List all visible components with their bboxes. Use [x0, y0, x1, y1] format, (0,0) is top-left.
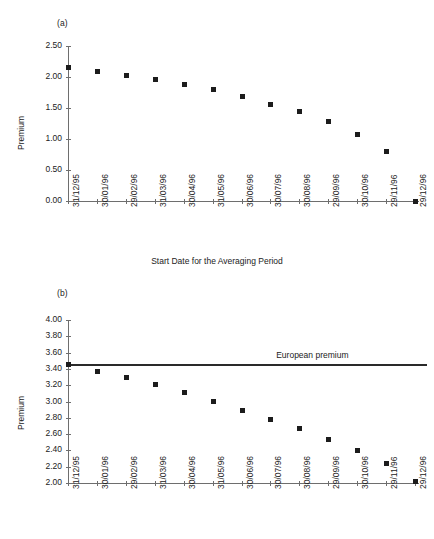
- data-point-marker: [413, 479, 418, 484]
- y-axis-tick: [66, 108, 71, 109]
- x-axis-tick-label: 29/09/96: [332, 456, 341, 489]
- data-point-marker: [326, 437, 331, 442]
- x-axis-tick-label: 29/11/96: [390, 175, 399, 207]
- x-axis-tick-label: 31/03/96: [159, 174, 168, 207]
- data-point-marker: [66, 65, 71, 70]
- x-axis-tick-label: 30/06/96: [246, 174, 255, 207]
- data-point-marker: [182, 82, 187, 87]
- y-axis-tick: [66, 46, 71, 47]
- data-point-marker: [413, 199, 418, 204]
- data-point-marker: [268, 417, 273, 422]
- y-axis-tick-label: 3.40: [0, 364, 62, 373]
- x-axis-tick-label: 29/11/96: [390, 457, 399, 489]
- y-axis-tick-label: 4.00: [0, 315, 62, 324]
- x-axis-tick: [328, 199, 329, 204]
- y-axis-tick-label: 2.80: [0, 413, 62, 422]
- x-axis-tick-label: 29/02/96: [130, 456, 139, 489]
- y-axis-tick-label: 3.80: [0, 331, 62, 340]
- x-axis-tick-label: 30/08/96: [303, 456, 312, 489]
- chart-a-y-axis-title: Premium: [16, 116, 26, 150]
- x-axis-tick: [299, 199, 300, 204]
- y-axis-tick-label: 3.20: [0, 380, 62, 389]
- x-axis-tick-label: 29/02/96: [130, 174, 139, 207]
- x-axis-tick: [328, 481, 329, 486]
- x-axis-tick-label: 30/10/96: [361, 174, 370, 207]
- y-axis-tick: [66, 320, 71, 321]
- data-point-marker: [153, 382, 158, 387]
- x-axis-tick-label: 30/01/96: [101, 456, 110, 489]
- x-axis-tick-label: 31/12/95: [72, 456, 81, 489]
- data-point-marker: [211, 87, 216, 92]
- data-point-marker: [153, 77, 158, 82]
- data-point-marker: [268, 102, 273, 107]
- x-axis-tick: [213, 199, 214, 204]
- european-premium-label: European premium: [276, 350, 348, 360]
- y-axis-tick: [66, 402, 71, 403]
- x-axis-tick-label: 30/01/96: [101, 174, 110, 207]
- x-axis-tick-label: 29/12/96: [419, 456, 428, 489]
- data-point-marker: [240, 94, 245, 99]
- data-point-marker: [95, 69, 100, 74]
- x-axis-tick: [184, 481, 185, 486]
- x-axis-tick: [242, 481, 243, 486]
- y-axis-tick-label: 2.50: [0, 41, 62, 50]
- x-axis-tick: [126, 199, 127, 204]
- x-axis-tick-label: 30/04/96: [188, 456, 197, 489]
- y-axis-tick: [66, 77, 71, 78]
- y-axis-tick: [66, 353, 71, 354]
- data-point-marker: [124, 73, 129, 78]
- x-axis-tick: [357, 481, 358, 486]
- x-axis-tick: [97, 481, 98, 486]
- y-axis-tick-label: 1.00: [0, 134, 62, 143]
- x-axis-tick-label: 30/10/96: [361, 456, 370, 489]
- y-axis-tick: [66, 434, 71, 435]
- x-axis-tick: [97, 199, 98, 204]
- panel-a-label: (a): [57, 18, 68, 28]
- x-axis-tick-label: 31/03/96: [159, 456, 168, 489]
- y-axis-tick: [66, 450, 71, 451]
- x-axis-tick: [357, 199, 358, 204]
- x-axis-tick: [126, 481, 127, 486]
- chart-panel-a: (a) Premium 0.000.501.001.502.002.5031/1…: [0, 0, 434, 270]
- y-axis-tick-label: 2.20: [0, 462, 62, 471]
- european-premium-reference-line: [68, 364, 427, 366]
- data-point-marker: [355, 132, 360, 137]
- x-axis-tick: [299, 481, 300, 486]
- x-axis-tick-label: 29/09/96: [332, 174, 341, 207]
- y-axis-tick: [66, 336, 71, 337]
- data-point-marker: [95, 369, 100, 374]
- x-axis-tick: [270, 481, 271, 486]
- x-axis-tick-label: 30/07/96: [274, 456, 283, 489]
- y-axis-tick: [66, 418, 71, 419]
- data-point-marker: [124, 375, 129, 380]
- data-point-marker: [182, 390, 187, 395]
- y-axis-tick-label: 2.60: [0, 429, 62, 438]
- x-axis-tick: [213, 481, 214, 486]
- x-axis-tick: [270, 199, 271, 204]
- y-axis-tick-label: 2.00: [0, 478, 62, 487]
- x-axis-tick: [68, 199, 69, 204]
- y-axis-tick: [66, 385, 71, 386]
- data-point-marker: [297, 109, 302, 114]
- y-axis-tick-label: 2.00: [0, 72, 62, 81]
- x-axis-tick-label: 31/05/96: [217, 456, 226, 489]
- y-axis-tick-label: 3.60: [0, 348, 62, 357]
- data-point-marker: [326, 119, 331, 124]
- x-axis-tick: [155, 199, 156, 204]
- chart-a-x-axis-title: Start Date for the Averaging Period: [0, 256, 434, 266]
- x-axis-tick-label: 30/08/96: [303, 174, 312, 207]
- data-point-marker: [355, 448, 360, 453]
- y-axis-tick: [66, 139, 71, 140]
- x-axis-tick-label: 30/06/96: [246, 456, 255, 489]
- x-axis-tick-label: 30/04/96: [188, 174, 197, 207]
- x-axis-tick: [155, 481, 156, 486]
- x-axis-tick: [386, 481, 387, 486]
- data-point-marker: [211, 399, 216, 404]
- x-axis-tick: [184, 199, 185, 204]
- x-axis-tick-label: 31/05/96: [217, 174, 226, 207]
- y-axis-tick-label: 0.50: [0, 165, 62, 174]
- y-axis-tick-label: 2.40: [0, 445, 62, 454]
- x-axis-tick-label: 31/12/95: [72, 174, 81, 207]
- panel-b-label: (b): [57, 288, 68, 298]
- y-axis-tick-label: 0.00: [0, 196, 62, 205]
